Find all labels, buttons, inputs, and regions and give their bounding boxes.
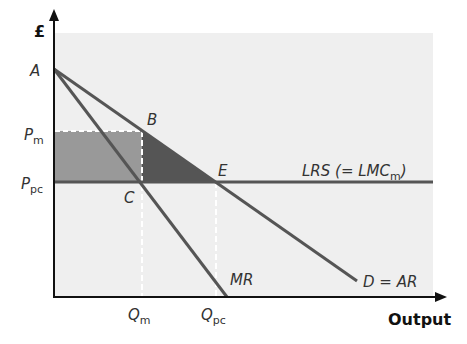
ppc-label: Ppc <box>21 175 43 196</box>
y-axis-label: £ <box>34 22 45 41</box>
point-b-label: B <box>147 111 157 129</box>
monopoly-profit-area <box>55 131 142 182</box>
point-e-label: E <box>218 162 228 180</box>
point-c-label: C <box>124 189 135 207</box>
qpc-label: Qpc <box>201 306 226 327</box>
x-axis-arrow-icon <box>435 292 447 302</box>
y-axis-arrow-icon <box>49 9 59 21</box>
qm-label: Qm <box>128 306 151 327</box>
pm-label: Pm <box>24 126 44 147</box>
point-a-label: A <box>29 62 40 80</box>
x-axis-label: Output <box>388 310 451 329</box>
monopoly-diagram: £ Output A B C E Pm Ppc Qm Qpc LRS (= LM… <box>0 0 467 344</box>
demand-label: D = AR <box>363 273 417 291</box>
mr-label: MR <box>230 271 253 289</box>
